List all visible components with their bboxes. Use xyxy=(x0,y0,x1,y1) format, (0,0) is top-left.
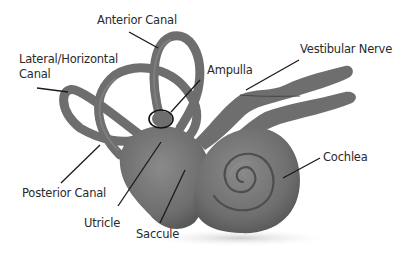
ampulla-bulge xyxy=(152,111,172,127)
inner-ear-diagram: Anterior Canal Lateral/Horizontal Canal … xyxy=(0,0,415,257)
label-lateral-canal-line1: Lateral/Horizontal xyxy=(19,52,118,66)
label-cochlea: Cochlea xyxy=(323,150,368,164)
label-vestibular-nerve: Vestibular Nerve xyxy=(300,42,392,56)
leader-posterior-canal xyxy=(61,145,100,183)
label-anterior-canal: Anterior Canal xyxy=(97,13,177,27)
label-lateral-canal-line2: Canal xyxy=(19,67,51,81)
label-saccule: Saccule xyxy=(136,227,179,241)
inner-ear-illustration xyxy=(0,0,415,257)
label-ampulla: Ampulla xyxy=(207,63,253,77)
label-posterior-canal: Posterior Canal xyxy=(22,186,106,200)
leader-anterior-canal xyxy=(129,32,158,48)
label-utricle: Utricle xyxy=(84,216,120,230)
